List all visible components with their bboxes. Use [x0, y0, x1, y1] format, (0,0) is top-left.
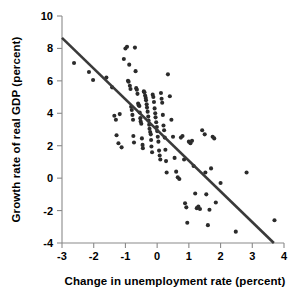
data-point	[161, 123, 165, 127]
data-point	[169, 118, 173, 122]
x-tick-label: 1	[186, 250, 192, 262]
x-tick-label: 4	[281, 250, 288, 262]
y-tick-label: 0	[47, 172, 53, 184]
data-point	[245, 170, 249, 174]
data-point	[146, 110, 150, 114]
data-point	[166, 72, 170, 76]
data-point	[200, 128, 204, 132]
x-axis-title: Change in unemployment rate (percent)	[65, 275, 286, 287]
data-point	[149, 144, 153, 148]
data-point	[132, 140, 136, 144]
data-point	[162, 128, 166, 132]
data-point	[140, 136, 144, 140]
data-point	[168, 94, 172, 98]
data-point	[130, 113, 134, 117]
data-point	[161, 113, 165, 117]
data-point	[112, 114, 116, 118]
data-point	[139, 122, 143, 126]
data-point	[128, 87, 132, 91]
data-point	[193, 192, 197, 196]
data-point	[272, 218, 276, 222]
okun-law-scatter-figure: -4-20246810 -3-2-101234 Change in unempl…	[0, 0, 300, 296]
data-point	[115, 133, 119, 137]
data-point	[157, 149, 161, 153]
scatter-points-group	[72, 45, 277, 234]
x-tick-label: 3	[249, 250, 255, 262]
data-point	[171, 135, 175, 139]
data-point	[158, 157, 162, 161]
data-point	[163, 148, 167, 152]
data-point	[154, 120, 158, 124]
data-point	[165, 170, 169, 174]
data-point	[219, 181, 223, 185]
data-point	[203, 132, 207, 136]
data-point	[206, 223, 210, 227]
data-point	[212, 136, 216, 140]
data-point	[185, 221, 189, 225]
data-point	[146, 114, 150, 118]
x-tick-label: -2	[89, 250, 99, 262]
data-point	[127, 63, 131, 67]
x-tick-label: -1	[121, 250, 131, 262]
data-point	[214, 200, 218, 204]
data-point	[204, 192, 208, 196]
data-point	[184, 205, 188, 209]
x-axis-ticks: -3-2-101234	[57, 243, 288, 262]
data-point	[135, 92, 139, 96]
x-tick-label: 2	[218, 250, 224, 262]
y-axis-title: Growth rate of real GDP (percent)	[10, 37, 22, 223]
data-point	[174, 170, 178, 174]
y-tick-label: -4	[43, 237, 54, 249]
data-point	[234, 230, 238, 234]
data-point	[149, 138, 153, 142]
y-tick-label: 4	[47, 107, 54, 119]
data-point	[131, 134, 135, 138]
data-point	[183, 201, 187, 205]
chart-canvas: -4-20246810 -3-2-101234 Change in unempl…	[0, 0, 300, 296]
data-point	[156, 140, 160, 144]
y-tick-label: 6	[47, 75, 53, 87]
data-point	[177, 177, 181, 181]
x-tick-label: -3	[57, 250, 67, 262]
data-point	[152, 100, 156, 104]
data-point	[149, 132, 153, 136]
data-point	[173, 156, 177, 160]
data-point	[125, 45, 129, 49]
data-point	[122, 57, 126, 61]
data-point	[209, 166, 213, 170]
data-point	[151, 95, 155, 99]
data-point	[131, 118, 135, 122]
data-point	[153, 106, 157, 110]
data-point	[114, 118, 118, 122]
data-point	[134, 69, 138, 73]
y-axis-ticks: -4-20246810	[41, 10, 62, 249]
data-point	[133, 46, 137, 50]
y-tick-label: -2	[43, 205, 53, 217]
data-point	[116, 141, 120, 145]
data-point	[72, 61, 76, 65]
data-point	[153, 111, 157, 115]
data-point	[120, 145, 124, 149]
data-point	[156, 135, 160, 139]
y-tick-label: 10	[41, 10, 53, 22]
data-point	[150, 150, 154, 154]
data-point	[127, 80, 131, 84]
data-point	[158, 153, 162, 157]
data-point	[145, 106, 149, 110]
data-point	[87, 70, 91, 74]
y-tick-label: 2	[47, 140, 53, 152]
data-point	[118, 112, 122, 116]
data-point	[160, 97, 164, 101]
data-point	[190, 139, 194, 143]
data-point	[91, 78, 95, 82]
data-point	[198, 207, 202, 211]
regression-trend-line	[62, 38, 274, 243]
data-point	[135, 88, 139, 92]
y-tick-label: 8	[47, 42, 53, 54]
data-point	[180, 134, 184, 138]
data-point	[164, 159, 168, 163]
data-point	[160, 101, 164, 105]
axes-group	[62, 16, 284, 243]
data-point	[154, 115, 158, 119]
data-point	[137, 104, 141, 108]
